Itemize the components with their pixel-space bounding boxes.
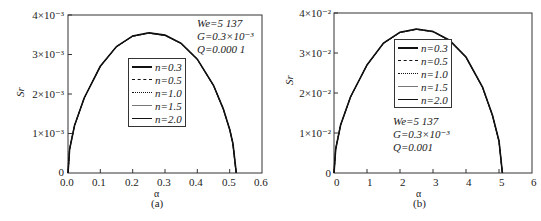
- legend-item: n=1.5: [132, 99, 182, 112]
- y-tick-label: 3×10⁻²: [299, 47, 331, 59]
- legend-swatch-dotted: [398, 73, 418, 74]
- x-tick-label: 2: [400, 176, 406, 188]
- legend-label: n=1.5: [155, 100, 182, 112]
- y-tick-label: 3×10⁻³: [32, 48, 64, 60]
- y-tick-label: 4×10⁻²: [299, 7, 331, 19]
- annotation-we-b: We=5 137: [393, 115, 438, 128]
- legend-swatch-solid-thick: [398, 47, 418, 49]
- legend-swatch-dashed: [398, 60, 418, 61]
- legend-item: n=1.0: [132, 86, 182, 99]
- legend-label: n=1.0: [155, 87, 182, 99]
- chart-panel-a: 4×10⁻³ 3×10⁻³ 2×10⁻³ 1×10⁻³ 0 Sr 0.0 0.1…: [0, 0, 270, 221]
- x-tick-label: 0.0: [60, 176, 74, 188]
- legend-swatch-dashed: [132, 79, 152, 80]
- legend-item: n=2.0: [398, 93, 448, 106]
- x-tick-label: 0.5: [222, 176, 236, 188]
- y-tick-label: 1×10⁻²: [299, 127, 331, 139]
- y-axis-label-a: Sr: [14, 87, 26, 97]
- x-tick-label: 0.3: [157, 176, 171, 188]
- legend-a: n=0.3 n=0.5 n=1.0 n=1.5 n=2.0: [128, 58, 186, 127]
- x-tick-label: 0: [334, 176, 340, 188]
- annotation-q-b: Q=0.001: [393, 141, 433, 154]
- legend-b: n=0.3 n=0.5 n=1.0 n=1.5 n=2.0: [394, 39, 452, 108]
- legend-label: n=0.3: [421, 42, 448, 54]
- panel-caption-b: (b): [413, 197, 426, 209]
- annotation-g-b: G=0.3×10⁻³: [393, 128, 450, 141]
- legend-item: n=1.0: [398, 67, 448, 80]
- x-tick-label: 1: [367, 176, 373, 188]
- x-tick-label: 0.1: [92, 176, 106, 188]
- legend-label: n=0.5: [155, 74, 182, 86]
- legend-swatch-solid-gray: [132, 105, 152, 106]
- legend-label: n=1.0: [421, 68, 448, 80]
- annotation-q-a: Q=0.000 1: [197, 43, 245, 56]
- legend-swatch-solid-gray: [398, 86, 418, 87]
- legend-swatch-dotted: [132, 92, 152, 93]
- legend-item: n=1.5: [398, 80, 448, 93]
- y-tick-label: 1×10⁻³: [32, 127, 64, 139]
- annotation-g-a: G=0.3×10⁻³: [197, 30, 254, 43]
- legend-swatch-solid-thin: [398, 99, 418, 100]
- legend-item: n=0.5: [132, 73, 182, 86]
- y-tick-label: 0: [326, 167, 332, 179]
- legend-item: n=0.5: [398, 54, 448, 67]
- y-axis-label-b: Sr: [283, 75, 295, 85]
- x-tick-label: 0.2: [125, 176, 139, 188]
- annotation-we-a: We=5 137: [197, 17, 242, 30]
- x-tick-label: 3: [433, 176, 439, 188]
- legend-label: n=1.5: [421, 81, 448, 93]
- legend-label: n=0.3: [155, 61, 182, 73]
- legend-swatch-solid-thin: [132, 118, 152, 119]
- legend-item: n=2.0: [132, 112, 182, 125]
- legend-item: n=0.3: [398, 41, 448, 54]
- y-tick-label: 2×10⁻²: [299, 87, 331, 99]
- legend-label: n=0.5: [421, 55, 448, 67]
- legend-swatch-solid-thick: [132, 66, 152, 68]
- panel-caption-a: (a): [151, 197, 163, 209]
- x-tick-label: 6: [531, 176, 537, 188]
- x-tick-label: 4: [466, 176, 472, 188]
- x-tick-label: 0.4: [189, 176, 203, 188]
- chart-panel-b: 4×10⁻² 3×10⁻² 2×10⁻² 1×10⁻² 0 Sr 0 1 2 3…: [270, 0, 541, 221]
- legend-label: n=2.0: [421, 94, 448, 106]
- x-tick-label: 5: [499, 176, 505, 188]
- y-tick-label: 2×10⁻³: [32, 88, 64, 100]
- y-tick-label: 4×10⁻³: [32, 9, 64, 21]
- x-tick-label: 0.6: [254, 176, 268, 188]
- legend-label: n=2.0: [155, 113, 182, 125]
- legend-item: n=0.3: [132, 60, 182, 73]
